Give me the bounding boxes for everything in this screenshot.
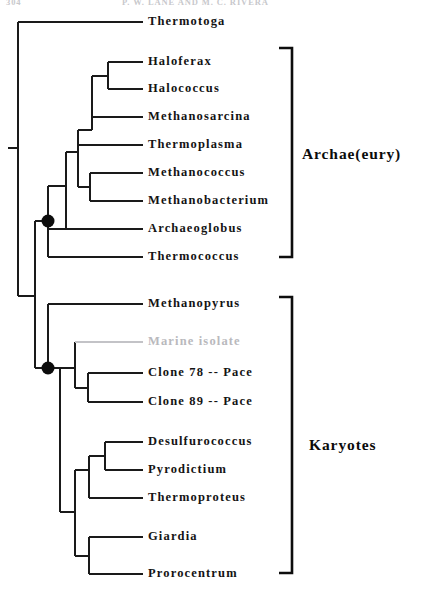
taxon-label-methanopyrus: Methanopyrus	[148, 297, 240, 310]
phylogenetic-tree-figure: 304 P. W. LANE AND M. C. RIVERA	[0, 0, 441, 589]
taxon-label-thermoproteus: Thermoproteus	[148, 491, 246, 504]
taxon-label-desulfurococcus: Desulfurococcus	[148, 435, 253, 448]
taxon-label-methanobacterium: Methanobacterium	[148, 194, 269, 207]
taxon-label-pyrodictium: Pyrodictium	[148, 463, 227, 476]
taxon-label-marine-isolate: Marine isolate	[148, 335, 241, 348]
taxon-label-methanococcus: Methanococcus	[148, 166, 246, 179]
taxon-label-clone-78: Clone 78 -- Pace	[148, 366, 253, 379]
taxon-label-halococcus: Halococcus	[148, 82, 220, 95]
support-node-archaea	[42, 215, 55, 228]
taxon-label-clone-89: Clone 89 -- Pace	[148, 395, 253, 408]
support-node-karyotes	[42, 362, 55, 375]
taxon-label-prorocentrum: Prorocentrum	[148, 567, 238, 580]
taxon-label-giardia: Giardia	[148, 530, 198, 543]
taxon-label-thermococcus: Thermococcus	[148, 250, 240, 263]
taxon-label-archaeoglobus: Archaeoglobus	[148, 222, 243, 235]
taxon-label-thermoplasma: Thermoplasma	[148, 138, 243, 151]
group-label-karyotes: Karyotes	[309, 437, 376, 453]
group-bracket-archae-eury	[279, 48, 292, 257]
group-bracket-karyotes	[279, 297, 292, 573]
group-label-archae-eury: Archae(eury)	[302, 146, 401, 162]
taxon-label-thermotoga: Thermotoga	[148, 15, 225, 28]
taxon-label-methanosarcina: Methanosarcina	[148, 110, 251, 123]
taxon-label-haloferax: Haloferax	[148, 55, 212, 68]
